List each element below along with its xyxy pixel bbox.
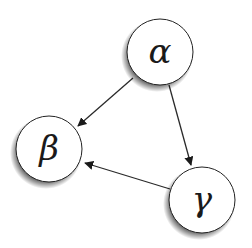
edge-gamma-to-beta [85,163,170,189]
node-beta: β [10,116,82,189]
node-gamma: γ [163,167,235,240]
edge-alpha-to-beta [78,78,133,126]
node-alpha: α [121,19,193,92]
node-beta-label: β [37,128,59,168]
edge-alpha-to-gamma [169,85,191,165]
node-gamma-label: γ [192,179,213,219]
edges [78,78,191,189]
node-alpha-label: α [149,31,172,71]
directed-graph: α β γ [0,0,252,248]
